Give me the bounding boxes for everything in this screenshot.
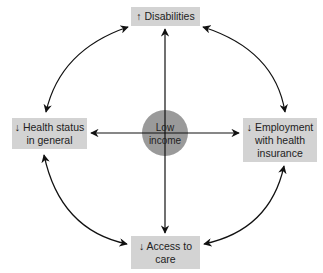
arrow-employment-access — [204, 166, 284, 244]
low-income-label: Low income — [142, 117, 188, 151]
health-status-box: ↓ Health status in general — [12, 118, 87, 149]
disabilities-box: ↑ Disabilities — [131, 7, 200, 26]
arrow-disabilities-employment — [203, 27, 285, 112]
employment-box: ↓ Employment with health insurance — [243, 118, 317, 162]
arrow-disabilities-health — [46, 27, 128, 112]
access-to-care-box: ↓ Access to care — [131, 236, 200, 269]
arrow-health-access — [44, 155, 127, 244]
